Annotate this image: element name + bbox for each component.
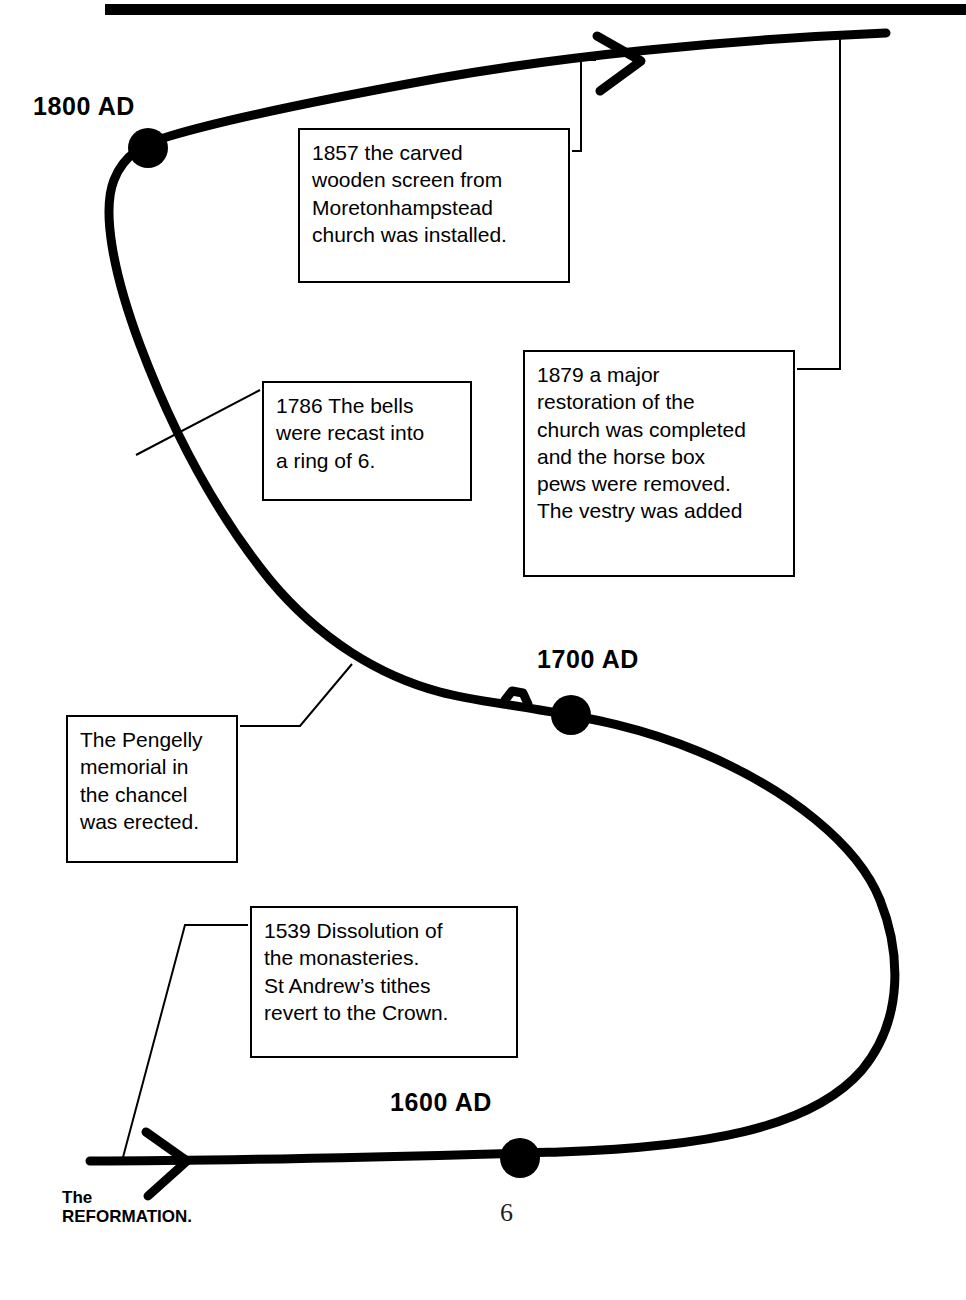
leader-line-1539: [122, 925, 248, 1161]
callout-1857: 1857 the carved wooden screen from Moret…: [298, 128, 570, 283]
reformation-caption-line1: The: [62, 1188, 192, 1207]
era-marker-1600-dot: [500, 1138, 540, 1178]
reformation-caption-line2: REFORMATION.: [62, 1207, 192, 1226]
leader-line-1857: [572, 60, 596, 151]
page-number: 6: [500, 1198, 513, 1228]
era-label-1600: 1600 AD: [390, 1088, 492, 1117]
era-label-1800: 1800 AD: [33, 92, 135, 121]
era-marker-1700-dot: [551, 695, 591, 735]
callout-1539: 1539 Dissolution of the monasteries. St …: [250, 906, 518, 1058]
era-marker-1800-dot: [128, 128, 168, 168]
callout-1879: 1879 a major restoration of the church w…: [523, 350, 795, 577]
leader-line-1879: [797, 38, 840, 369]
callout-1786: 1786 The bells were recast into a ring o…: [262, 381, 472, 501]
leader-line-pengelly: [240, 664, 352, 726]
reformation-caption: The REFORMATION.: [62, 1188, 192, 1226]
header-rule: [105, 4, 966, 15]
timeline-arrowhead-top-icon: [597, 36, 641, 91]
era-label-1700: 1700 AD: [537, 645, 639, 674]
callout-pengelly: The Pengelly memorial in the chancel was…: [66, 715, 238, 863]
leader-line-1786: [136, 390, 260, 455]
timeline-page: 1800 AD 1700 AD 1600 AD 1857 the carved …: [0, 0, 966, 1300]
